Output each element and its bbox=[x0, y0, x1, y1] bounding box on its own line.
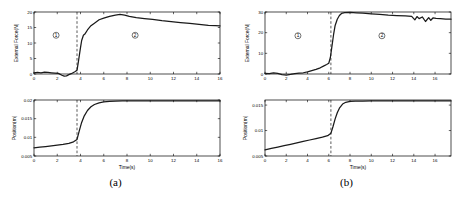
y-tick-label: 20 bbox=[258, 30, 263, 35]
x-tick-label: 6 bbox=[103, 76, 106, 81]
region-marker-label: 1 bbox=[55, 33, 58, 38]
y-tick-label: 0.01 bbox=[24, 135, 33, 140]
x-tick-label: 6 bbox=[103, 158, 106, 163]
x-tick-label: 2 bbox=[56, 76, 59, 81]
x-tick-label: 16 bbox=[433, 158, 438, 163]
plot-frame bbox=[265, 100, 451, 156]
x-tick-label: 8 bbox=[349, 76, 352, 81]
x-tick-label: 16 bbox=[433, 76, 438, 81]
x-tick-label: 10 bbox=[369, 76, 374, 81]
x-tick-label: 0 bbox=[264, 158, 267, 163]
x-tick-label: 12 bbox=[171, 158, 176, 163]
region-marker-label: 1 bbox=[297, 33, 300, 38]
panel-a-plots: 024681012141605101520External Force(N)12… bbox=[0, 0, 231, 176]
x-tick-label: 4 bbox=[306, 76, 309, 81]
x-tick-label: 2 bbox=[56, 158, 59, 163]
x-tick-label: 14 bbox=[194, 158, 199, 163]
x-tick-label: 2 bbox=[285, 158, 288, 163]
panel-a: 024681012141605101520External Force(N)12… bbox=[0, 0, 231, 205]
x-tick-label: 6 bbox=[328, 158, 331, 163]
y-tick-label: 30 bbox=[258, 10, 263, 15]
figure-container: 024681012141605101520External Force(N)12… bbox=[0, 0, 462, 205]
data-curve bbox=[34, 101, 220, 148]
x-tick-label: 12 bbox=[390, 158, 395, 163]
x-tick-label: 12 bbox=[171, 76, 176, 81]
y-tick-label: 0.005 bbox=[252, 154, 264, 159]
x-tick-label: 6 bbox=[328, 76, 331, 81]
x-tick-label: 12 bbox=[390, 76, 395, 81]
x-tick-label: 16 bbox=[218, 76, 223, 81]
x-tick-label: 8 bbox=[126, 76, 129, 81]
x-tick-label: 0 bbox=[264, 76, 267, 81]
x-tick-label: 0 bbox=[33, 158, 36, 163]
x-axis-label: Time(s) bbox=[119, 165, 136, 170]
x-tick-label: 10 bbox=[369, 158, 374, 163]
panel-b-plots: 02468101214160102030External Force(N)120… bbox=[231, 0, 462, 176]
y-tick-label: 10 bbox=[258, 51, 263, 56]
y-axis-label: Position(m) bbox=[12, 115, 17, 140]
plot-frame bbox=[265, 12, 451, 74]
region-marker-label: 2 bbox=[134, 33, 137, 38]
y-tick-label: 0.015 bbox=[21, 116, 33, 121]
y-tick-label: 20 bbox=[27, 10, 32, 15]
y-axis-label: Position(m) bbox=[243, 115, 248, 140]
plot-frame bbox=[34, 100, 220, 156]
x-tick-label: 8 bbox=[126, 158, 129, 163]
panel-a-caption: (a) bbox=[0, 176, 231, 188]
data-curve bbox=[265, 101, 451, 150]
x-tick-label: 8 bbox=[349, 158, 352, 163]
data-curve bbox=[34, 14, 220, 76]
y-axis-label: External Force(N) bbox=[14, 23, 19, 62]
x-tick-label: 14 bbox=[194, 76, 199, 81]
x-tick-label: 2 bbox=[285, 76, 288, 81]
y-tick-label: 5 bbox=[30, 56, 33, 61]
x-tick-label: 14 bbox=[411, 158, 416, 163]
x-tick-label: 4 bbox=[79, 76, 82, 81]
y-tick-label: 10 bbox=[27, 41, 32, 46]
panel-b: 02468101214160102030External Force(N)120… bbox=[231, 0, 462, 205]
x-axis-label: Time(s) bbox=[350, 165, 367, 170]
y-tick-label: 0.015 bbox=[252, 103, 264, 108]
y-tick-label: 0.02 bbox=[24, 98, 33, 103]
plot-frame bbox=[34, 12, 220, 74]
x-tick-label: 4 bbox=[306, 158, 309, 163]
x-tick-label: 16 bbox=[218, 158, 223, 163]
x-tick-label: 10 bbox=[148, 158, 153, 163]
y-axis-label: External Force(N) bbox=[245, 23, 250, 62]
region-marker-label: 2 bbox=[381, 33, 384, 38]
y-tick-label: 0.005 bbox=[21, 154, 33, 159]
x-tick-label: 0 bbox=[33, 76, 36, 81]
x-tick-label: 10 bbox=[148, 76, 153, 81]
x-tick-label: 14 bbox=[411, 76, 416, 81]
data-curve bbox=[265, 12, 451, 75]
x-tick-label: 4 bbox=[79, 158, 82, 163]
y-tick-label: 0.01 bbox=[255, 128, 264, 133]
panel-b-caption: (b) bbox=[231, 176, 462, 188]
y-tick-label: 15 bbox=[27, 25, 32, 30]
